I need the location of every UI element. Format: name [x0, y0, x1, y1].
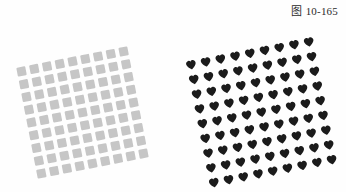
- heart-icon: [261, 58, 276, 71]
- heart-icon: [325, 153, 340, 166]
- heart-icon: [276, 132, 291, 145]
- square-icon: [138, 148, 148, 158]
- heart-icon: [234, 155, 249, 168]
- square-icon: [22, 91, 32, 101]
- square-icon: [57, 138, 67, 148]
- pattern-cell: [323, 151, 341, 169]
- heart-icon: [235, 79, 250, 92]
- heart-icon: [264, 149, 279, 162]
- square-icon: [78, 107, 88, 117]
- heart-icon: [196, 117, 211, 130]
- heart-icon: [202, 146, 217, 159]
- square-icon: [50, 99, 60, 109]
- square-icon: [121, 125, 131, 135]
- square-icon: [45, 74, 55, 84]
- square-icon: [85, 79, 95, 89]
- square-icon: [80, 53, 90, 63]
- pattern-cell: [249, 165, 267, 183]
- square-icon: [83, 66, 93, 76]
- square-icon: [103, 102, 113, 112]
- square-icon: [29, 63, 39, 73]
- square-icon: [24, 104, 34, 114]
- square-icon: [54, 125, 64, 135]
- square-icon: [121, 59, 131, 69]
- square-icon: [98, 77, 108, 87]
- heart-icon: [317, 108, 332, 121]
- heart-icon: [211, 114, 226, 127]
- pattern-cell: [220, 171, 238, 189]
- pattern-cell: [136, 146, 151, 161]
- heart-icon: [199, 131, 214, 144]
- heart-pattern-grid: [182, 33, 340, 191]
- square-icon: [90, 105, 100, 115]
- heart-icon: [281, 161, 296, 174]
- square-icon: [123, 138, 133, 148]
- heart-icon: [237, 93, 252, 106]
- square-icon: [70, 69, 80, 79]
- square-icon: [57, 71, 67, 81]
- square-icon: [68, 56, 78, 66]
- square-icon: [108, 61, 118, 71]
- square-icon: [116, 100, 126, 110]
- square-icon: [136, 135, 146, 145]
- square-icon: [87, 158, 97, 168]
- square-icon: [19, 79, 29, 89]
- heart-icon: [273, 41, 288, 54]
- square-icon: [111, 74, 121, 84]
- square-icon: [110, 140, 120, 150]
- square-icon: [126, 151, 136, 161]
- square-icon: [36, 168, 46, 178]
- square-icon: [42, 61, 52, 71]
- square-icon: [108, 128, 118, 138]
- heart-icon: [240, 108, 255, 121]
- heart-icon: [296, 158, 311, 171]
- square-icon: [34, 155, 44, 165]
- heart-icon: [252, 167, 267, 180]
- square-icon: [95, 130, 105, 140]
- pattern-cell: [235, 168, 253, 186]
- heart-icon: [223, 96, 238, 109]
- square-icon: [96, 64, 106, 74]
- heart-icon: [217, 67, 232, 80]
- figure-caption-label: 图 10-165: [291, 5, 338, 18]
- heart-icon: [302, 111, 317, 124]
- heart-icon: [202, 70, 217, 83]
- heart-icon: [258, 120, 273, 133]
- square-icon: [131, 110, 141, 120]
- square-icon: [67, 122, 77, 132]
- heart-icon: [255, 105, 270, 118]
- square-icon: [93, 117, 103, 127]
- heart-icon: [246, 137, 261, 150]
- square-icon: [85, 145, 95, 155]
- square-icon: [126, 84, 136, 94]
- heart-icon: [314, 94, 329, 107]
- heart-icon: [311, 79, 326, 92]
- heart-pattern-panel: [173, 20, 346, 192]
- heart-icon: [273, 117, 288, 130]
- square-icon: [32, 76, 42, 86]
- square-pattern-grid: [14, 43, 151, 180]
- square-icon: [47, 153, 57, 163]
- square-icon: [59, 150, 69, 160]
- square-icon: [75, 94, 85, 104]
- heart-icon: [308, 141, 323, 154]
- heart-icon: [288, 38, 303, 51]
- heart-icon: [294, 67, 309, 80]
- square-icon: [60, 84, 70, 94]
- square-icon: [106, 115, 116, 125]
- heart-icon: [226, 111, 241, 124]
- square-icon: [72, 148, 82, 158]
- heart-icon: [237, 170, 252, 183]
- heart-icon: [291, 52, 306, 65]
- heart-icon: [232, 64, 247, 77]
- heart-icon: [282, 85, 297, 98]
- pattern-cell: [308, 154, 326, 172]
- square-icon: [88, 92, 98, 102]
- square-icon: [52, 112, 62, 122]
- square-icon: [62, 163, 72, 173]
- square-icon: [75, 161, 85, 171]
- square-icon: [31, 142, 41, 152]
- square-icon: [26, 117, 36, 127]
- square-icon: [62, 97, 72, 107]
- square-pattern-panel: [0, 24, 173, 192]
